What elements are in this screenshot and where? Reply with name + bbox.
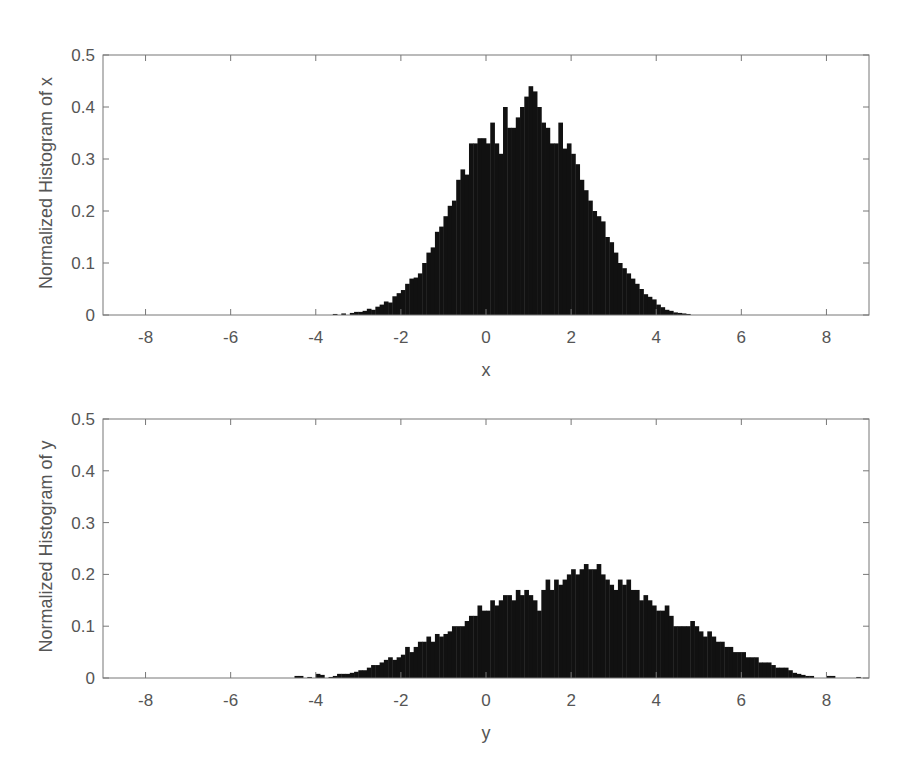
histogram-bar — [601, 574, 606, 678]
histogram-bar — [529, 595, 534, 678]
x-axis-label: y — [482, 723, 491, 743]
histogram-bar — [639, 289, 644, 315]
histogram-bar — [695, 626, 700, 678]
histogram-bar — [392, 296, 397, 315]
histogram-bar — [541, 590, 546, 678]
histogram-bar — [533, 91, 538, 315]
histogram-bar — [418, 642, 423, 678]
histogram-bar — [592, 569, 597, 678]
histogram-bar — [371, 310, 376, 315]
histogram-bar — [524, 97, 529, 315]
histogram-bar — [499, 154, 504, 315]
histogram-bar — [448, 206, 453, 315]
histogram-bar — [592, 211, 597, 315]
histogram-bar — [426, 637, 431, 678]
histogram-bar — [465, 175, 470, 315]
histogram-bar — [443, 634, 448, 678]
histogram-bar — [537, 611, 542, 678]
histogram-bar — [609, 242, 614, 315]
histogram-bar — [546, 128, 551, 315]
histogram-bar — [669, 616, 674, 678]
histogram-bar — [733, 652, 738, 678]
histogram-bar — [541, 123, 546, 315]
histogram-bars — [295, 564, 861, 678]
x-tick-label: -4 — [308, 328, 323, 347]
histogram-bar — [384, 301, 389, 315]
x-tick-label: -6 — [223, 328, 238, 347]
y-tick-label: 0.3 — [71, 150, 95, 169]
histogram-bar — [618, 263, 623, 315]
y-tick-label: 0 — [86, 306, 95, 325]
histogram-bar — [763, 662, 768, 678]
histogram-bar — [724, 647, 729, 678]
histogram-bar — [631, 590, 636, 678]
histogram-bar — [758, 662, 763, 678]
histogram-bar — [401, 655, 406, 678]
histogram-bar — [520, 595, 525, 678]
histogram-bar — [614, 590, 619, 678]
histogram-y-chart: -8-6-4-20246800.10.20.30.40.5yNormalized… — [0, 390, 900, 781]
histogram-bar — [626, 580, 631, 678]
histogram-bar — [712, 637, 717, 678]
histogram-bar — [512, 600, 517, 678]
histogram-bar — [358, 670, 363, 678]
x-tick-label: 0 — [481, 328, 490, 347]
histogram-bar — [516, 117, 521, 315]
y-tick-label: 0.2 — [71, 202, 95, 221]
histogram-bar — [622, 585, 627, 678]
histogram-bar — [414, 647, 419, 678]
histogram-bar — [554, 580, 559, 678]
histogram-bar — [346, 674, 351, 678]
x-tick-label: 4 — [651, 691, 660, 710]
x-tick-label: 8 — [822, 328, 831, 347]
histogram-bar — [367, 309, 372, 315]
histogram-bar — [448, 631, 453, 678]
histogram-bar — [546, 580, 551, 678]
histogram-bar — [375, 665, 380, 678]
histogram-bar — [405, 284, 410, 315]
histogram-bar — [431, 247, 436, 315]
x-tick-label: 0 — [481, 691, 490, 710]
histogram-bar — [575, 574, 580, 678]
histogram-bar — [452, 626, 457, 678]
histogram-bars — [333, 86, 691, 315]
histogram-bar — [618, 580, 623, 678]
histogram-bar — [337, 674, 342, 678]
histogram-bar — [418, 273, 423, 315]
histogram-bar — [486, 143, 491, 315]
histogram-bar — [554, 143, 559, 315]
x-tick-label: -8 — [138, 328, 153, 347]
histogram-x-panel: -8-6-4-20246800.10.20.30.40.5xNormalized… — [0, 0, 900, 390]
histogram-bar — [716, 642, 721, 678]
histogram-bar — [699, 631, 704, 678]
y-axis-label: Normalized Histogram of y — [36, 440, 56, 652]
histogram-bar — [512, 128, 517, 315]
histogram-bar — [614, 253, 619, 315]
histogram-bar — [584, 190, 589, 315]
histogram-bar — [426, 253, 431, 315]
y-tick-label: 0.4 — [71, 98, 95, 117]
x-tick-label: -6 — [223, 691, 238, 710]
histogram-bar — [669, 311, 674, 315]
histogram-bar — [550, 590, 555, 678]
x-tick-label: 8 — [822, 691, 831, 710]
x-tick-label: 2 — [566, 328, 575, 347]
histogram-bar — [354, 672, 359, 678]
histogram-bar — [392, 660, 397, 678]
histogram-bar — [469, 616, 474, 678]
histogram-bar — [537, 107, 542, 315]
histogram-bar — [665, 605, 670, 678]
histogram-bar — [516, 590, 521, 678]
histogram-bar — [771, 665, 776, 678]
histogram-bar — [473, 616, 478, 678]
histogram-bar — [503, 595, 508, 678]
histogram-bar — [648, 297, 653, 315]
histogram-bar — [422, 263, 427, 315]
histogram-bar — [550, 143, 555, 315]
histogram-bar — [341, 674, 346, 678]
histogram-bar — [460, 169, 465, 315]
histogram-bar — [507, 595, 512, 678]
histogram-bar — [754, 657, 759, 678]
histogram-bar — [371, 665, 376, 678]
histogram-bar — [520, 107, 525, 315]
